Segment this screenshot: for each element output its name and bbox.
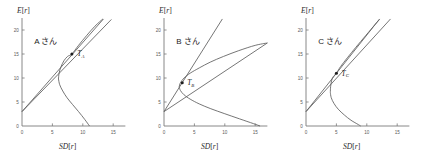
tangency-point-marker	[70, 53, 73, 56]
y-axis-title: E[r]	[300, 6, 314, 15]
y-tick-label: 15	[298, 52, 304, 57]
chart-panel-3: 05101520051015E[r]SD[r]TCC さん	[284, 0, 426, 162]
x-tick-label: 10	[80, 130, 86, 135]
chart-panel-2: 05101520051015E[r]SD[r]TBB さん	[142, 0, 284, 162]
x-tick-label: 15	[111, 130, 117, 135]
efficient-frontier-lower	[58, 79, 89, 126]
y-tick-label: 5	[158, 100, 161, 105]
panel-person-label: B さん	[176, 37, 200, 46]
y-tick-label: 0	[16, 124, 19, 129]
x-tick-label: 15	[253, 130, 259, 135]
efficient-frontier-upper	[179, 43, 267, 87]
x-tick-label: 15	[395, 130, 401, 135]
y-tick-label: 5	[16, 100, 19, 105]
efficient-frontier-lower	[330, 92, 360, 126]
tangency-point-label: TA	[77, 49, 84, 59]
y-tick-label: 20	[14, 28, 20, 33]
tangency-point-label: TB	[187, 78, 194, 88]
chart-panel-1: 05101520051015E[r]SD[r]TAA さん	[0, 0, 142, 162]
y-axis-title: E[r]	[16, 6, 30, 15]
x-tick-label: 0	[305, 130, 308, 135]
y-tick-label: 10	[156, 76, 162, 81]
y-tick-label: 0	[300, 124, 303, 129]
tangent-extension	[22, 19, 103, 112]
tangency-point-marker	[335, 72, 338, 75]
tangency-point-marker	[181, 81, 184, 84]
x-axis-title: SD[r]	[343, 142, 360, 151]
x-tick-label: 0	[21, 130, 24, 135]
x-tick-label: 5	[51, 130, 54, 135]
three-panel-efficient-frontier-figure: 05101520051015E[r]SD[r]TAA さん05101520051…	[0, 0, 426, 162]
y-tick-label: 10	[298, 76, 304, 81]
panel-person-label: A さん	[34, 37, 57, 46]
y-axis-title: E[r]	[158, 6, 172, 15]
y-tick-label: 0	[158, 124, 161, 129]
x-tick-label: 5	[335, 130, 338, 135]
y-tick-label: 20	[298, 28, 304, 33]
y-tick-label: 10	[14, 76, 20, 81]
y-tick-label: 20	[156, 28, 162, 33]
y-tick-label: 15	[156, 52, 162, 57]
x-tick-label: 5	[193, 130, 196, 135]
panel-person-label: C さん	[318, 37, 342, 46]
x-axis-title: SD[r]	[201, 142, 218, 151]
tangency-point-label: TC	[342, 69, 350, 79]
x-tick-label: 10	[364, 130, 370, 135]
capital-market-line	[164, 19, 222, 112]
y-tick-label: 5	[300, 100, 303, 105]
efficient-frontier-upper	[330, 19, 379, 92]
y-tick-label: 15	[14, 52, 20, 57]
tangent-extension	[164, 43, 267, 112]
efficient-frontier-lower	[179, 87, 260, 126]
tangent-extension	[306, 19, 391, 112]
x-axis-title: SD[r]	[59, 142, 76, 151]
x-tick-label: 10	[222, 130, 228, 135]
x-tick-label: 0	[163, 130, 166, 135]
